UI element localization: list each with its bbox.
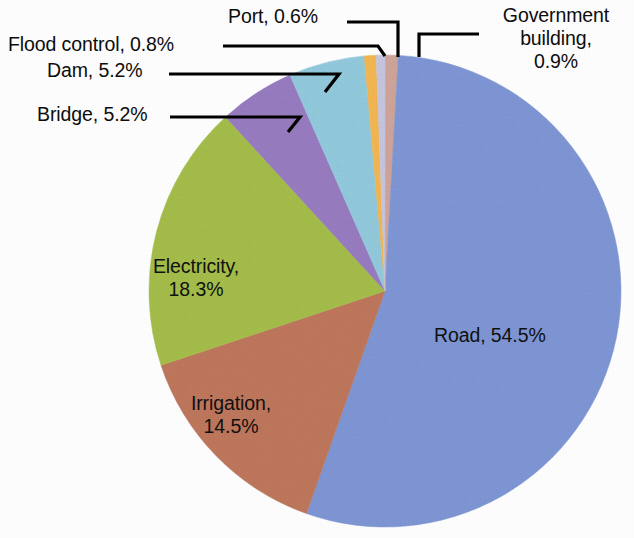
slice-label-irrigation-line2: 14.5%: [191, 415, 271, 438]
leader-line-government-building: [419, 34, 479, 57]
slice-label-dam: Dam, 5.2%: [47, 59, 143, 82]
slice-label-government-building-line3: 0.9%: [486, 50, 626, 73]
slice-label-irrigation-line1: Irrigation,: [191, 392, 271, 415]
slice-label-government-building-line2: building,: [486, 27, 626, 50]
slice-label-port: Port, 0.6%: [228, 5, 318, 28]
slice-label-government-building-line1: Government: [486, 4, 626, 27]
slice-label-irrigation: Irrigation, 14.5%: [191, 392, 271, 439]
slice-label-electricity-line1: Electricity,: [153, 255, 239, 278]
slice-label-road: Road, 54.5%: [434, 324, 546, 347]
slice-label-government-building: Government building, 0.9%: [486, 4, 626, 73]
leader-line-flood-control: [223, 46, 385, 56]
slice-label-bridge: Bridge, 5.2%: [37, 103, 147, 126]
slice-label-electricity: Electricity, 18.3%: [153, 255, 239, 302]
slice-label-electricity-line2: 18.3%: [153, 278, 239, 301]
leader-line-port: [347, 22, 398, 57]
pie-chart: Flood control, 0.8% Dam, 5.2% Bridge, 5.…: [0, 0, 634, 538]
slice-label-flood-control: Flood control, 0.8%: [8, 33, 174, 56]
